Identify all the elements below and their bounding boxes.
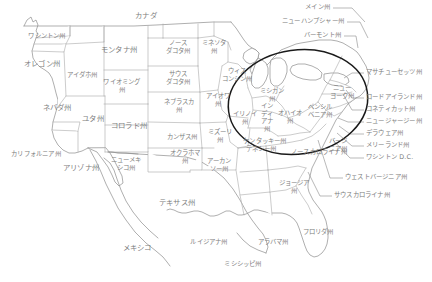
state-borders bbox=[32, 22, 356, 215]
us-state-map: カナダメキシコ ワシントン州オレゴン州カリフォルニア州ネバダ州アイダホ州モンタナ… bbox=[0, 0, 432, 282]
mexico-outline bbox=[88, 148, 268, 266]
callout-leader-lines bbox=[308, 8, 368, 196]
map-canvas bbox=[0, 0, 432, 282]
